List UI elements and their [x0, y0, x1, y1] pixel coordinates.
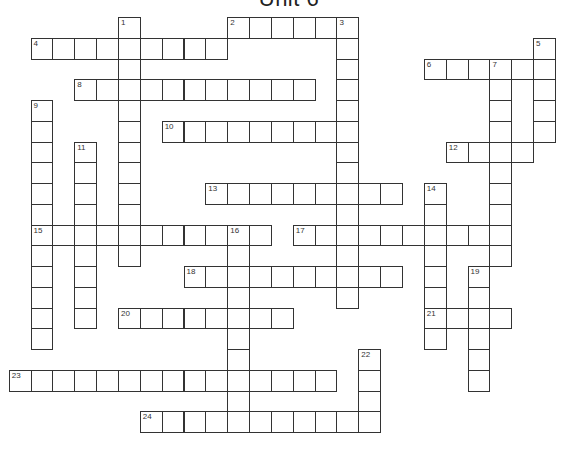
- crossword-cell[interactable]: [336, 266, 359, 288]
- crossword-cell[interactable]: [31, 121, 54, 143]
- crossword-cell[interactable]: [96, 225, 119, 247]
- crossword-cell[interactable]: [31, 287, 54, 309]
- crossword-cell[interactable]: [468, 349, 491, 371]
- crossword-cell[interactable]: [489, 204, 512, 226]
- crossword-cell[interactable]: [315, 183, 338, 205]
- crossword-cell[interactable]: 2: [227, 17, 250, 39]
- crossword-cell[interactable]: [118, 245, 141, 267]
- crossword-cell[interactable]: [205, 370, 228, 392]
- crossword-cell[interactable]: [184, 225, 207, 247]
- crossword-cell[interactable]: [271, 79, 294, 101]
- crossword-cell[interactable]: 9: [31, 100, 54, 122]
- crossword-cell[interactable]: [227, 183, 250, 205]
- crossword-cell[interactable]: [271, 121, 294, 143]
- crossword-cell[interactable]: [118, 79, 141, 101]
- crossword-cell[interactable]: [31, 204, 54, 226]
- crossword-cell[interactable]: [424, 328, 447, 350]
- crossword-cell[interactable]: [205, 79, 228, 101]
- crossword-cell[interactable]: [184, 121, 207, 143]
- crossword-cell[interactable]: 7: [489, 59, 512, 81]
- crossword-cell[interactable]: [140, 38, 163, 60]
- crossword-cell[interactable]: [446, 225, 469, 247]
- crossword-cell[interactable]: [533, 79, 556, 101]
- crossword-cell[interactable]: [74, 266, 97, 288]
- crossword-cell[interactable]: [315, 411, 338, 433]
- crossword-cell[interactable]: [446, 308, 469, 330]
- crossword-cell[interactable]: [358, 370, 381, 392]
- crossword-cell[interactable]: [336, 204, 359, 226]
- crossword-cell[interactable]: [162, 225, 185, 247]
- crossword-cell[interactable]: [293, 411, 316, 433]
- crossword-cell[interactable]: [31, 328, 54, 350]
- crossword-cell[interactable]: [446, 59, 469, 81]
- crossword-cell[interactable]: [468, 287, 491, 309]
- crossword-cell[interactable]: [511, 59, 534, 81]
- crossword-cell[interactable]: [271, 17, 294, 39]
- crossword-cell[interactable]: [31, 308, 54, 330]
- crossword-cell[interactable]: [118, 38, 141, 60]
- crossword-cell[interactable]: [184, 370, 207, 392]
- crossword-cell[interactable]: [249, 308, 272, 330]
- crossword-cell[interactable]: [315, 17, 338, 39]
- crossword-cell[interactable]: [227, 328, 250, 350]
- crossword-cell[interactable]: [205, 38, 228, 60]
- crossword-cell[interactable]: [336, 79, 359, 101]
- crossword-cell[interactable]: [249, 17, 272, 39]
- crossword-cell[interactable]: [293, 266, 316, 288]
- crossword-cell[interactable]: 1: [118, 17, 141, 39]
- crossword-cell[interactable]: [118, 59, 141, 81]
- crossword-cell[interactable]: [293, 121, 316, 143]
- crossword-cell[interactable]: [205, 266, 228, 288]
- crossword-cell[interactable]: [96, 370, 119, 392]
- crossword-cell[interactable]: [184, 308, 207, 330]
- crossword-cell[interactable]: [184, 79, 207, 101]
- crossword-cell[interactable]: [52, 225, 75, 247]
- crossword-cell[interactable]: [118, 183, 141, 205]
- crossword-cell[interactable]: [74, 162, 97, 184]
- crossword-cell[interactable]: [271, 411, 294, 433]
- crossword-cell[interactable]: [468, 328, 491, 350]
- crossword-cell[interactable]: [336, 411, 359, 433]
- crossword-cell[interactable]: [489, 308, 512, 330]
- crossword-cell[interactable]: [489, 79, 512, 101]
- crossword-cell[interactable]: [424, 225, 447, 247]
- crossword-cell[interactable]: 8: [74, 79, 97, 101]
- crossword-cell[interactable]: [380, 266, 403, 288]
- crossword-cell[interactable]: [489, 162, 512, 184]
- crossword-cell[interactable]: [293, 370, 316, 392]
- crossword-cell[interactable]: [74, 287, 97, 309]
- crossword-cell[interactable]: [31, 142, 54, 164]
- crossword-cell[interactable]: [336, 162, 359, 184]
- crossword-cell[interactable]: [205, 225, 228, 247]
- crossword-cell[interactable]: 19: [468, 266, 491, 288]
- crossword-cell[interactable]: [468, 308, 491, 330]
- crossword-cell[interactable]: [380, 183, 403, 205]
- crossword-cell[interactable]: [358, 391, 381, 413]
- crossword-cell[interactable]: [205, 121, 228, 143]
- crossword-cell[interactable]: 24: [140, 411, 163, 433]
- crossword-cell[interactable]: [489, 100, 512, 122]
- crossword-cell[interactable]: [424, 204, 447, 226]
- crossword-cell[interactable]: [468, 142, 491, 164]
- crossword-cell[interactable]: [315, 370, 338, 392]
- crossword-cell[interactable]: [358, 225, 381, 247]
- crossword-cell[interactable]: [336, 183, 359, 205]
- crossword-cell[interactable]: [511, 142, 534, 164]
- crossword-cell[interactable]: [533, 121, 556, 143]
- crossword-cell[interactable]: [489, 245, 512, 267]
- crossword-cell[interactable]: [118, 162, 141, 184]
- crossword-cell[interactable]: [315, 121, 338, 143]
- crossword-cell[interactable]: [118, 121, 141, 143]
- crossword-cell[interactable]: [140, 79, 163, 101]
- crossword-cell[interactable]: [249, 121, 272, 143]
- crossword-cell[interactable]: [336, 100, 359, 122]
- crossword-cell[interactable]: [336, 38, 359, 60]
- crossword-cell[interactable]: 21: [424, 308, 447, 330]
- crossword-cell[interactable]: [184, 411, 207, 433]
- crossword-cell[interactable]: [96, 38, 119, 60]
- crossword-cell[interactable]: [424, 266, 447, 288]
- crossword-cell[interactable]: [118, 142, 141, 164]
- crossword-cell[interactable]: [271, 266, 294, 288]
- crossword-cell[interactable]: [402, 225, 425, 247]
- crossword-cell[interactable]: 3: [336, 17, 359, 39]
